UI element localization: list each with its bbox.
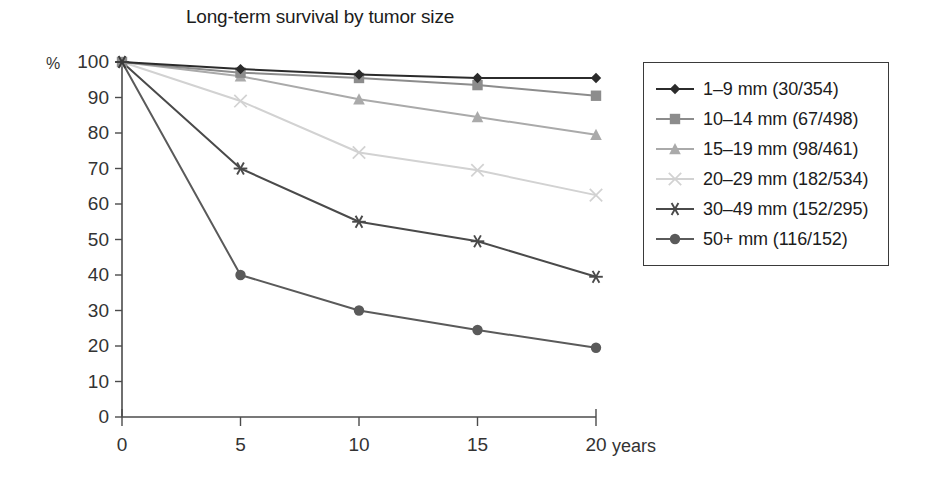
legend-item[interactable]: 30–49 mm (152/295) (654, 194, 876, 224)
legend-marker-asterisk-icon (654, 198, 696, 220)
legend-label: 10–14 mm (67/498) (703, 109, 858, 130)
legend-label: 20–29 mm (182/534) (703, 169, 868, 190)
legend-marker-circle-icon (654, 228, 696, 250)
legend-item[interactable]: 10–14 mm (67/498) (654, 104, 876, 134)
y-axis-tick-label: 80 (63, 123, 109, 142)
legend-label: 50+ mm (116/152) (703, 229, 848, 250)
legend-item[interactable]: 20–29 mm (182/534) (654, 164, 876, 194)
legend: 1–9 mm (30/354)10–14 mm (67/498)15–19 mm… (643, 62, 889, 266)
legend-item[interactable]: 15–19 mm (98/461) (654, 134, 876, 164)
series-line (122, 62, 601, 353)
chart-root: Long-term survival by tumor size 0102030… (0, 0, 939, 488)
y-axis-tick-label: 60 (63, 194, 109, 213)
x-axis-tick-label: 0 (102, 435, 142, 454)
legend-item[interactable]: 50+ mm (116/152) (654, 224, 876, 254)
legend-label: 30–49 mm (152/295) (703, 199, 868, 220)
x-axis-tick-label: 5 (221, 435, 261, 454)
series-line (122, 62, 601, 101)
legend-marker-square-icon (654, 108, 696, 130)
legend-marker-diamond-icon (654, 78, 696, 100)
legend-label: 15–19 mm (98/461) (703, 139, 858, 160)
y-axis-tick-label: 50 (63, 230, 109, 249)
y-axis-tick-label: 70 (63, 159, 109, 178)
legend-marker-cross-icon (654, 168, 696, 190)
y-axis-tick-label: 40 (63, 265, 109, 284)
legend-marker-triangle-icon (654, 138, 696, 160)
legend-item[interactable]: 1–9 mm (30/354) (654, 74, 876, 104)
x-axis-tick-label: 10 (339, 435, 379, 454)
x-axis-unit-label: years (612, 436, 656, 457)
y-axis-tick-label: 20 (63, 336, 109, 355)
x-axis-tick-label: 15 (458, 435, 498, 454)
y-axis-unit-label: % (46, 55, 60, 73)
x-axis-tick-label: 20 (576, 435, 616, 454)
series-line (122, 62, 603, 283)
legend-label: 1–9 mm (30/354) (703, 79, 839, 100)
y-axis-tick-label: 10 (63, 372, 109, 391)
y-axis-tick-label: 90 (63, 88, 109, 107)
plot-area: 0102030405060708090100 05101520 % years (0, 0, 640, 488)
y-axis-tick-label: 30 (63, 301, 109, 320)
y-axis-tick-label: 100 (63, 52, 109, 71)
y-axis-tick-label: 0 (63, 407, 109, 426)
origin-marker-cluster (115, 56, 129, 68)
